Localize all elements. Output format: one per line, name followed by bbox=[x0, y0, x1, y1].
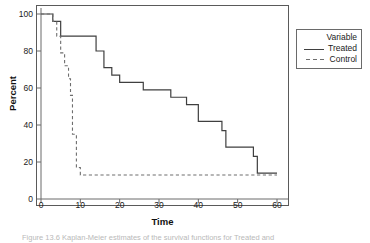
legend-title: Variable bbox=[300, 33, 357, 42]
x-tick-label: 30 bbox=[154, 201, 163, 210]
y-tick-label: 80 bbox=[11, 47, 33, 56]
legend: Variable Treated Control bbox=[296, 29, 362, 69]
figure-container: 0102030405060020406080100 Time Percent V… bbox=[0, 0, 370, 243]
x-tick-label: 10 bbox=[76, 201, 85, 210]
y-axis-title: Percent bbox=[7, 59, 18, 129]
legend-swatch-dashed-icon bbox=[306, 56, 326, 63]
legend-label-treated: Treated bbox=[328, 44, 357, 53]
legend-label-control: Control bbox=[330, 55, 357, 64]
y-tick-label: 20 bbox=[11, 158, 33, 167]
x-tick-label: 40 bbox=[194, 201, 203, 210]
x-tick-label: 0 bbox=[39, 201, 44, 210]
series-line-control bbox=[41, 14, 277, 175]
x-axis-title: Time bbox=[36, 216, 289, 227]
x-tick-label: 50 bbox=[233, 201, 242, 210]
x-tick-label: 60 bbox=[272, 201, 281, 210]
y-tick-label: 0 bbox=[11, 195, 33, 204]
y-tick-label: 100 bbox=[11, 10, 33, 19]
legend-item-control[interactable]: Control bbox=[300, 55, 357, 64]
legend-item-treated[interactable]: Treated bbox=[300, 44, 357, 53]
legend-swatch-solid-icon bbox=[304, 46, 324, 53]
figure-caption: Figure 13.6 Kaplan-Meier estimates of th… bbox=[22, 234, 362, 243]
x-tick-label: 20 bbox=[115, 201, 124, 210]
data-series bbox=[41, 14, 277, 175]
